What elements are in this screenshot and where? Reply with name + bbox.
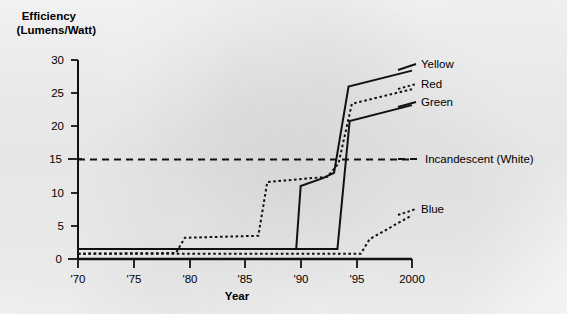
legend-label-red: Red [421, 78, 442, 90]
chart-figure: Efficiency (Lumens/Watt) 30 25 20 15 10 … [0, 0, 567, 314]
x-tick-label-2000: 2000 [399, 273, 425, 285]
y-tick-label-30: 30 [51, 54, 64, 66]
x-tick-label-1975: '75 [127, 273, 142, 285]
legend-leader-lines [398, 64, 420, 215]
efficiency-line-chart: Efficiency (Lumens/Watt) 30 25 20 15 10 … [0, 0, 567, 314]
leader-line-red [398, 84, 416, 89]
y-tick-label-20: 20 [51, 120, 64, 132]
x-tick-label-1990: '90 [294, 273, 309, 285]
x-tick-label-1970: '70 [71, 273, 86, 285]
leader-line-yellow [398, 64, 416, 70]
series-line-blue [78, 215, 412, 253]
x-axis-ticks [78, 259, 412, 268]
y-tick-label-10: 10 [51, 187, 64, 199]
legend-label-green: Green [421, 96, 453, 108]
y-tick-label-5: 5 [58, 220, 64, 232]
y-tick-label-0: 0 [56, 253, 62, 265]
legend-label-yellow: Yellow [421, 58, 455, 70]
leader-line-blue [398, 209, 416, 215]
x-axis-title: Year [225, 290, 250, 302]
series-line-red [78, 89, 412, 254]
legend-label-blue: Blue [421, 203, 444, 215]
y-tick-label-15: 15 [49, 153, 62, 165]
y-axis-title-line2: (Lumens/Watt) [17, 24, 97, 36]
x-tick-label-1985: '85 [238, 273, 253, 285]
series-layer [78, 71, 412, 254]
x-tick-label-1995: '95 [350, 273, 365, 285]
y-tick-label-25: 25 [51, 87, 64, 99]
legend-label-incandescent: Incandescent (White) [425, 153, 534, 165]
y-axis-title-line1: Efficiency [22, 10, 77, 22]
series-line-green [78, 105, 412, 249]
x-tick-label-1980: '80 [183, 273, 198, 285]
